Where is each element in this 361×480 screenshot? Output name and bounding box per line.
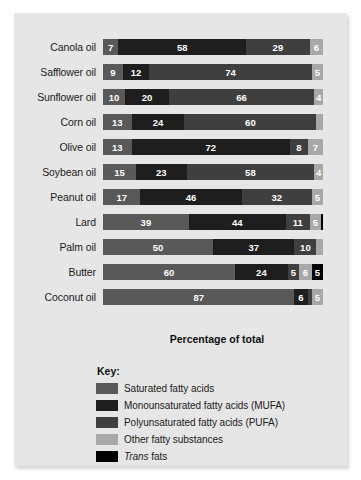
legend-title: Key: [96,365,285,377]
bar-segment-other: 5 [312,189,323,205]
chart-row: Safflower oil912745 [14,64,347,80]
row-label: Butter [14,264,103,280]
segment-value: 5 [315,67,320,78]
row-label: Canola oil [14,39,103,55]
segment-value: 66 [236,92,247,103]
row-bar: 137287 [103,139,323,155]
row-bar: 132460 [103,114,323,130]
row-bar: 1746325 [103,189,323,205]
legend-label: Other fatty substances [124,434,223,445]
segment-value: 72 [206,142,217,153]
row-bar: 1523584 [103,164,323,180]
row-label: Lard [14,214,103,230]
chart-row: Butter6024565 [14,264,347,280]
chart-row: Palm oil503710 [14,239,347,255]
bar-segment-sat: 60 [103,264,235,280]
segment-value: 46 [186,192,197,203]
bar-segment-mufa: 72 [132,139,290,155]
segment-value: 29 [273,42,284,53]
row-label: Corn oil [14,114,103,130]
bar-segment-mufa: 23 [136,164,187,180]
bar-segment-mufa: 20 [125,89,169,105]
bar-segment-mufa: 37 [213,239,294,255]
bar-segment-other: 7 [308,139,323,155]
bar-segment-other [316,114,323,130]
bar-segment-sat: 10 [103,89,125,105]
bar-segment-other: 4 [314,89,323,105]
bar-segment-sat: 7 [103,39,118,55]
bar-segment-trans: 5 [312,264,323,280]
bar-segment-other: 5 [310,214,321,230]
segment-value: 87 [193,292,204,303]
legend-item: Monounsaturated fatty acids (MUFA) [96,398,285,412]
bar-segment-sat: 17 [103,189,140,205]
row-label: Palm oil [14,239,103,255]
row-bar: 503710 [103,239,323,255]
stacked-bar-chart: Canola oil758296Safflower oil912745Sunfl… [14,39,347,314]
chart-row: Lard3944115 [14,214,347,230]
chart-row: Corn oil132460 [14,114,347,130]
row-bar: 6024565 [103,264,323,280]
segment-value: 10 [300,242,311,253]
chart-row: Coconut oil8765 [14,289,347,305]
bar-segment-mufa: 12 [123,64,149,80]
legend-items: Saturated fatty acidsMonounsaturated fat… [96,381,285,463]
bar-segment-sat: 13 [103,114,132,130]
segment-value: 13 [112,142,123,153]
segment-value: 15 [114,167,125,178]
bar-segment-other: 6 [310,39,323,55]
segment-value: 60 [164,267,175,278]
legend-swatch-sat [96,383,118,394]
legend-swatch-mufa [96,400,118,411]
segment-value: 7 [313,142,318,153]
segment-value: 5 [315,292,320,303]
bar-segment-sat: 15 [103,164,136,180]
segment-value: 60 [245,117,256,128]
bar-segment-mufa: 24 [132,114,185,130]
segment-value: 13 [112,117,123,128]
segment-value: 24 [153,117,164,128]
legend-item: Saturated fatty acids [96,381,285,395]
legend-label-rest: fats [149,451,168,462]
bar-segment-pufa: 11 [286,214,310,230]
row-bar: 1020664 [103,89,323,105]
segment-value: 50 [153,242,164,253]
bar-segment-pufa: 32 [242,189,312,205]
legend-swatch-other [96,434,118,445]
bar-segment-pufa: 10 [294,239,316,255]
chart-row: Olive oil137287 [14,139,347,155]
bar-segment-other [316,239,323,255]
bar-segment-mufa: 58 [118,39,246,55]
segment-value: 23 [156,167,167,178]
bar-segment-pufa: 58 [187,164,315,180]
bar-segment-mufa: 44 [189,214,286,230]
bar-segment-other: 4 [314,164,323,180]
segment-value: 11 [293,217,303,228]
legend-label: Trans fats [124,451,167,462]
bar-segment-other: 6 [299,264,312,280]
row-bar: 3944115 [103,214,323,230]
segment-value: 5 [315,192,320,203]
segment-value: 5 [313,217,318,228]
segment-value: 24 [256,267,267,278]
figure-panel: Canola oil758296Safflower oil912745Sunfl… [14,13,347,466]
legend-item: Polyunsaturated fatty acids (PUFA) [96,415,285,429]
row-bar: 758296 [103,39,323,55]
legend-label: Polyunsaturated fatty acids (PUFA) [124,417,278,428]
segment-value: 37 [248,242,259,253]
chart-row: Sunflower oil1020664 [14,89,347,105]
row-label: Soybean oil [14,164,103,180]
segment-value: 5 [291,267,296,278]
bar-segment-pufa: 66 [169,89,314,105]
legend-item: Trans fats [96,449,285,463]
bar-segment-mufa: 46 [140,189,241,205]
segment-value: 17 [116,192,127,203]
bar-segment-mufa: 24 [235,264,288,280]
bar-segment-other: 5 [312,289,323,305]
legend-label: Monounsaturated fatty acids (MUFA) [124,400,285,411]
row-bar: 912745 [103,64,323,80]
segment-value: 58 [245,167,256,178]
segment-value: 6 [298,292,303,303]
segment-value: 6 [303,267,308,278]
legend-label-italic: Trans [124,451,149,462]
